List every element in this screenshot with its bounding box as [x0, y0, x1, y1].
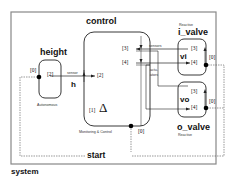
arrow-head-icon: [186, 62, 190, 65]
height-port-0: [0]: [30, 68, 36, 74]
o-valve-port-3: [3]: [191, 89, 197, 95]
i-valve-var: vi: [180, 53, 187, 61]
delta-symbol-icon: Δ: [99, 101, 107, 114]
arrow-head-icon: [186, 108, 190, 111]
diagram-canvas: [0, 0, 245, 189]
sensor-label: sensor: [67, 72, 78, 76]
system-label: system: [11, 168, 39, 176]
o-valve-port-4: [4]: [191, 105, 197, 111]
o-valve-title: o_valve: [177, 123, 210, 132]
i-valve-port-4: [4]: [191, 60, 197, 66]
height-title: height: [40, 48, 67, 57]
control-port-2: [2]: [97, 73, 103, 79]
arrow-head-icon: [83, 72, 86, 76]
actuators-label-2: ators: [150, 74, 158, 78]
o-valve-port-0: [0]: [209, 99, 215, 105]
control-port-1: [1]: [89, 108, 95, 114]
control-title: control: [86, 17, 117, 26]
control-start-port: [129, 124, 134, 129]
o-valve-start-port: [204, 106, 209, 111]
start-label: start: [86, 151, 106, 160]
arrow-head-icon: [91, 75, 95, 78]
o-valve-kind: Reactive: [178, 134, 192, 138]
control-port-0: [0]: [138, 129, 144, 135]
height-kind: Autonomous: [37, 104, 57, 108]
i-valve-title: i_valve: [178, 28, 208, 37]
height-start-port: [37, 75, 42, 80]
height-port-2: [2]: [47, 72, 53, 78]
o-valve-var: vo: [180, 96, 189, 104]
control-port-4: [4]: [122, 60, 128, 66]
sensors-label: sensors: [149, 45, 162, 49]
height-var: h: [71, 81, 76, 89]
arrow-head-icon: [136, 48, 140, 51]
control-port-3: [3]: [122, 46, 128, 52]
i-valve-port-0: [0]: [209, 55, 215, 61]
height-box: [39, 60, 61, 98]
i-valve-start-port: [204, 63, 209, 68]
arrow-head-icon: [140, 59, 143, 63]
i-valve-port-3: [3]: [191, 46, 197, 52]
control-kind: Monitoring & Control: [79, 131, 112, 135]
